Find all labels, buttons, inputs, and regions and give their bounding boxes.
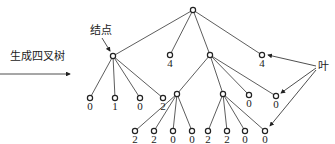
tree-edge: [177, 55, 210, 94]
leaf-value: 0: [242, 133, 248, 144]
node-pointer-arrow: [102, 38, 110, 51]
leaf-value: 1: [112, 100, 118, 112]
tree-edge: [193, 10, 262, 55]
leaf-value: 0: [246, 97, 252, 109]
tree-edge: [177, 94, 192, 131]
internal-node: [207, 52, 212, 57]
tree-edge: [223, 94, 265, 131]
leaf-value: 0: [189, 133, 195, 144]
leaf-value: 0: [137, 100, 143, 112]
leaf-pointer-arrow: [268, 55, 316, 66]
leaf-value: 0: [262, 133, 268, 144]
leaf-value: 2: [160, 100, 166, 112]
generate-quadtree-label: 生成四叉树: [10, 49, 65, 63]
tree-edge: [210, 55, 249, 95]
internal-node: [174, 91, 179, 96]
leaf-value: 2: [224, 133, 230, 144]
internal-node: [220, 91, 225, 96]
tree-edge: [90, 56, 113, 98]
leaf-value: 2: [205, 133, 211, 144]
leaf-pointer-arrow: [281, 68, 316, 93]
leaf-value: 0: [273, 98, 279, 110]
tree-edge: [208, 94, 223, 131]
tree-edges: [90, 10, 276, 131]
leaf-value: 4: [259, 57, 265, 69]
tree-edge: [210, 55, 276, 96]
tree-edge: [193, 10, 210, 55]
leaf-label: 叶: [318, 60, 329, 73]
leaf-value: 4: [167, 57, 173, 69]
leaf-value: 2: [132, 133, 138, 144]
leaf-value: 0: [170, 133, 176, 144]
internal-node: [110, 53, 115, 58]
tree-nodes: 4401020022002200: [87, 7, 279, 144]
leaf-value: 2: [151, 133, 157, 144]
leaf-value: 0: [87, 100, 93, 112]
tree-edge: [113, 56, 163, 98]
tree-edge: [113, 56, 115, 98]
tree-edge: [210, 55, 223, 94]
quadtree-diagram: 生成四叉树 结点 叶 4401020022002200: [0, 0, 335, 144]
root-node: [190, 7, 195, 12]
tree-edge: [113, 56, 140, 98]
node-label: 结点: [90, 24, 112, 37]
